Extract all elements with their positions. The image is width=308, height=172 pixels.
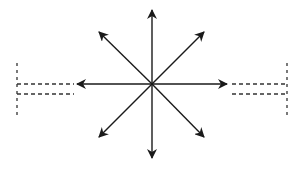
arrows-group [77, 10, 227, 158]
arrow-up-left-icon [99, 32, 152, 84]
arrow-up-right-icon [152, 32, 204, 84]
radial-arrows-diagram [0, 0, 308, 172]
arrow-down-right-icon [152, 84, 204, 137]
arrow-down-left-icon [99, 84, 152, 137]
